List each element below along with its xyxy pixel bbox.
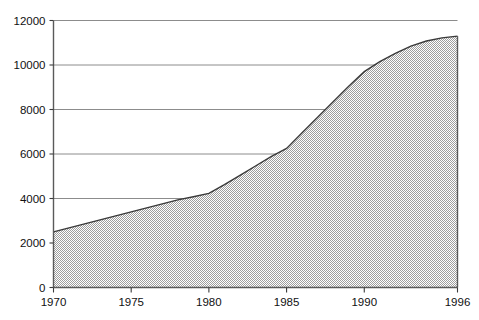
chart-canvas: 020004000600080001000012000 197019751980… xyxy=(0,0,479,320)
x-tick-label: 1990 xyxy=(351,296,377,308)
y-tick-label: 2000 xyxy=(20,237,46,249)
x-axis-ticks: 197019751980198519901996 xyxy=(41,288,471,308)
y-tick-label: 12000 xyxy=(14,15,46,27)
area-chart: 020004000600080001000012000 197019751980… xyxy=(0,0,479,320)
x-tick-label: 1970 xyxy=(41,296,67,308)
y-tick-label: 10000 xyxy=(14,59,46,71)
x-tick-label: 1985 xyxy=(274,296,300,308)
y-tick-label: 0 xyxy=(39,282,45,294)
x-tick-label: 1980 xyxy=(196,296,222,308)
y-tick-label: 8000 xyxy=(20,104,46,116)
x-tick-label: 1975 xyxy=(118,296,144,308)
x-tick-label: 1996 xyxy=(445,296,471,308)
y-axis-ticks: 020004000600080001000012000 xyxy=(14,15,54,294)
series-area-fill xyxy=(54,36,458,287)
y-tick-label: 6000 xyxy=(20,148,46,160)
series-area-group xyxy=(54,36,458,287)
y-tick-label: 4000 xyxy=(20,193,46,205)
